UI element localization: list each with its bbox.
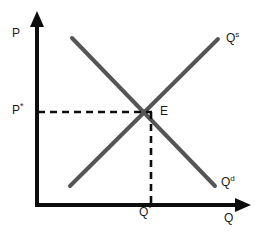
demand-curve-label-superscript: d (230, 174, 234, 183)
diagram-canvas (0, 0, 264, 240)
demand-curve-label: Qd (221, 176, 235, 188)
equilibrium-quantity-label-superscript: * (148, 203, 152, 213)
equilibrium-price-label-base: P (12, 103, 20, 117)
y-axis-arrowhead (30, 11, 44, 27)
y-axis-label: P (12, 27, 20, 39)
supply-curve-label: Qs (226, 32, 239, 44)
y-axis (30, 11, 44, 205)
demand-curve-label-base: Q (221, 175, 230, 189)
equilibrium-quantity-label: Q* (139, 206, 152, 218)
equilibrium-price-label: P* (12, 104, 24, 116)
equilibrium-point-label: E (160, 105, 168, 117)
supply-curve-label-base: Q (226, 31, 235, 45)
equilibrium-price-label-superscript: * (20, 101, 24, 111)
x-axis-label: Q (224, 212, 233, 224)
supply-curve-label-superscript: s (235, 30, 239, 39)
equilibrium-quantity-label-base: Q (139, 205, 148, 219)
x-axis-arrowhead (235, 198, 251, 212)
supply-demand-diagram: P Q Qs Qd E P* Q* (0, 0, 264, 240)
